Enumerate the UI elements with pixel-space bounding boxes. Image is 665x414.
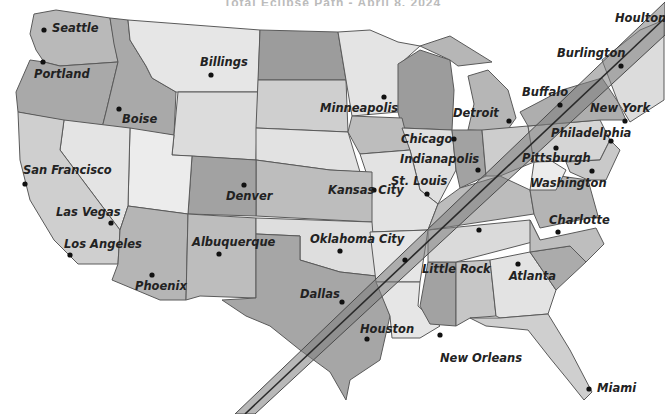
city-label: Burlington (557, 46, 626, 60)
city-dot (67, 252, 72, 257)
city-dot (216, 251, 221, 256)
city-label: Minneapolis (320, 101, 398, 115)
city-dot (555, 229, 560, 234)
city-nashville-unlabeled (476, 227, 481, 232)
city-label: Little Rock (422, 262, 492, 276)
city-label: New York (590, 101, 651, 115)
city-label: Washington (530, 176, 607, 190)
city-dot (22, 181, 27, 186)
city-dot (506, 118, 511, 123)
city-label: Miami (597, 381, 637, 395)
city-label: Houston (360, 322, 414, 336)
city-dot (208, 72, 213, 77)
city-kansas-city: Kansas City (328, 183, 404, 197)
city-label: Phoenix (135, 279, 187, 293)
city-label: Philadelphia (551, 126, 632, 140)
city-label: Portland (34, 67, 90, 81)
city-label: New Orleans (440, 351, 522, 365)
city-label: Seattle (52, 21, 99, 35)
city-label: Chicago (401, 132, 452, 146)
state-north-dakota (258, 30, 346, 80)
city-dot (557, 102, 562, 107)
city-dot (337, 248, 342, 253)
city-dot (589, 168, 594, 173)
city-dot (149, 272, 154, 277)
state-washington (30, 10, 118, 66)
city-dot (622, 118, 627, 123)
city-dot (40, 59, 45, 64)
city-label: Indianapolis (400, 152, 479, 166)
city-dot (364, 336, 369, 341)
city-label: Oklahoma City (310, 232, 405, 246)
city-dot (586, 386, 591, 391)
city-label: Atlanta (508, 269, 556, 283)
city-dot (553, 145, 558, 150)
city-dot (437, 332, 442, 337)
city-houlton: Houlton (615, 11, 665, 25)
city-dot (41, 27, 46, 32)
city-label: Denver (226, 189, 274, 203)
city-label: Houlton (615, 11, 665, 25)
city-dot (381, 94, 386, 99)
city-label: Los Angeles (64, 237, 142, 251)
city-chicago: Chicago (401, 132, 457, 146)
city-label: Albuquerque (191, 235, 276, 249)
city-houston: Houston (360, 322, 414, 342)
us-map: Seattle Portland Boise Billings Minneapo… (0, 0, 665, 414)
city-label: Pittsburgh (522, 151, 591, 165)
city-label: Kansas City (328, 183, 404, 197)
city-dot (476, 227, 481, 232)
city-label: Detroit (453, 106, 499, 120)
city-label: Billings (200, 55, 248, 69)
state-wyoming (172, 92, 258, 160)
city-dot (116, 106, 121, 111)
city-label: Las Vegas (56, 205, 121, 219)
city-new-orleans: New Orleans (437, 332, 522, 365)
city-dot (402, 257, 407, 262)
city-dot (339, 299, 344, 304)
city-dot (475, 167, 480, 172)
city-label: Charlotte (549, 213, 610, 227)
city-dot (424, 191, 429, 196)
city-label: Dallas (300, 287, 340, 301)
city-miami: Miami (586, 381, 637, 395)
city-dot (515, 261, 520, 266)
city-label: Buffalo (522, 85, 568, 99)
state-wisconsin (398, 50, 454, 130)
city-label: San Francisco (23, 163, 112, 177)
city-dot (618, 63, 623, 68)
city-dot (108, 220, 113, 225)
state-new-mexico (186, 214, 256, 300)
city-label: Boise (122, 112, 157, 126)
city-dot (241, 182, 246, 187)
